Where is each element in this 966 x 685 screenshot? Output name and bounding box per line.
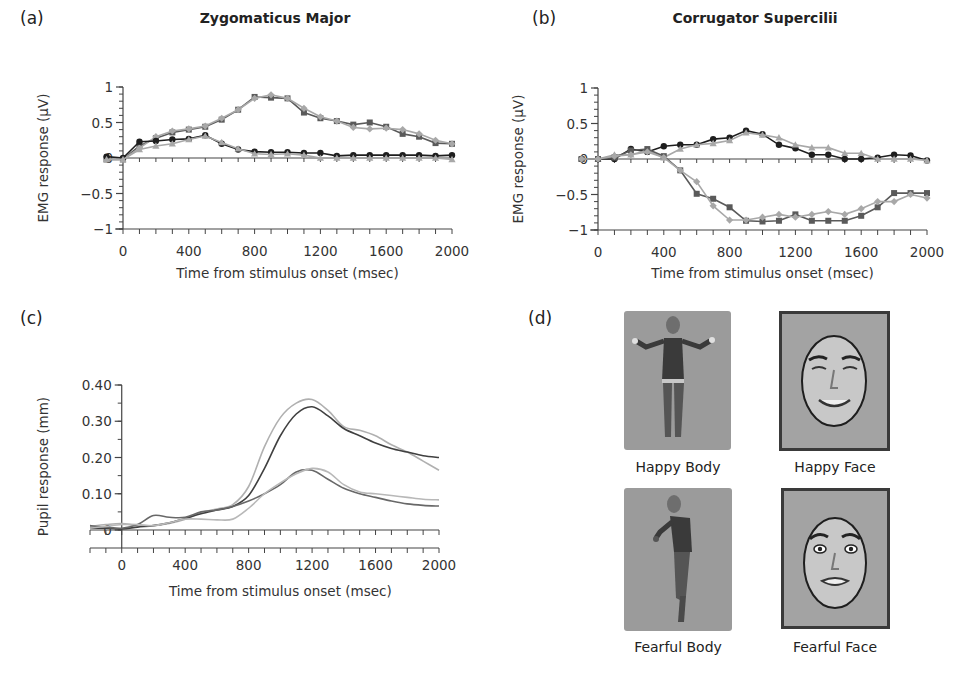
caption-happy-body: Happy Body: [608, 459, 748, 475]
y-axis-title: EMG response (µV): [35, 94, 51, 223]
y-tick-label: 0.40: [82, 377, 112, 393]
y-tick-label: −0.5: [80, 186, 113, 202]
axes-b: 10.50−0.5−10400800120016002000Time from …: [510, 80, 944, 281]
x-tick-label: 0: [119, 243, 128, 259]
x-tick-label: 1200: [295, 557, 329, 573]
x-tick-label: 1200: [778, 244, 812, 260]
curve-mid-lower: [90, 470, 439, 529]
caption-fearful-face: Fearful Face: [765, 639, 905, 655]
x-tick-label: 2000: [422, 557, 456, 573]
x-axis-title: Time from stimulus onset (msec): [650, 265, 874, 281]
x-tick-label: 0: [594, 244, 603, 260]
stimulus-fearful-face-image: [781, 488, 890, 629]
y-axis-title: EMG response (µV): [510, 95, 526, 224]
curve-dark-upper: [90, 407, 439, 529]
stimulus-happy-body-image: [624, 311, 731, 450]
x-tick-label: 1600: [358, 557, 392, 573]
y-axis-title: Pupil response (mm): [35, 397, 51, 536]
happy-face-icon: [782, 314, 887, 448]
axes-c: 0.400.300.200.1000400800120016002000Time…: [35, 377, 456, 599]
chart-zygomaticus-major: 10.50−0.5−10400800120016002000Time from …: [35, 79, 469, 281]
y-tick-label: 1: [104, 79, 113, 95]
y-tick-label: −0.5: [555, 187, 588, 203]
x-axis-title: Time from stimulus onset (msec): [168, 583, 392, 599]
chart-corrugator-supercilii: 10.50−0.5−10400800120016002000Time from …: [510, 80, 944, 281]
x-tick-label: 400: [176, 243, 202, 259]
x-tick-label: 400: [172, 557, 198, 573]
x-tick-label: 800: [236, 557, 262, 573]
y-tick-label: 0.30: [82, 413, 112, 429]
stimulus-happy-face-image: [779, 311, 890, 451]
x-axis-title: Time from stimulus onset (msec): [175, 265, 399, 281]
fearful-body-figure-icon: [624, 488, 732, 631]
x-tick-label: 1600: [369, 243, 403, 259]
x-tick-label: 0: [117, 557, 126, 573]
curve-light-lower: [90, 468, 439, 528]
y-tick-label: 0.20: [82, 450, 112, 466]
x-tick-label: 800: [717, 244, 743, 260]
x-tick-label: 400: [651, 244, 677, 260]
x-tick-label: 1600: [844, 244, 878, 260]
fearful-face-icon: [784, 491, 887, 626]
y-tick-label: −1: [568, 222, 588, 238]
y-tick-label: −1: [93, 221, 113, 237]
x-tick-label: 800: [242, 243, 268, 259]
x-tick-label: 2000: [435, 243, 469, 259]
y-tick-label: 0.5: [92, 115, 113, 131]
caption-fearful-body: Fearful Body: [608, 639, 748, 655]
y-tick-label: 1: [579, 80, 588, 96]
caption-happy-face: Happy Face: [765, 459, 905, 475]
stimulus-fearful-body-image: [624, 488, 732, 631]
y-tick-label: 0.10: [82, 486, 112, 502]
y-tick-label: 0.5: [567, 116, 588, 132]
chart-pupil-response: 0.400.300.200.1000400800120016002000Time…: [35, 377, 456, 599]
axes-a: 10.50−0.5−10400800120016002000Time from …: [35, 79, 469, 281]
happy-body-figure-icon: [624, 311, 731, 450]
curve-light-upper: [90, 399, 439, 526]
x-tick-label: 1200: [303, 243, 337, 259]
x-tick-label: 2000: [910, 244, 944, 260]
